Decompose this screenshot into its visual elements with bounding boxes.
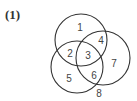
region-label-7: 7 (111, 58, 117, 69)
region-label-3: 3 (85, 50, 91, 61)
region-label-2: 2 (67, 48, 73, 59)
region-label-6: 6 (91, 70, 97, 81)
region-label-4: 4 (98, 35, 104, 46)
region-label-8: 8 (96, 88, 102, 99)
venn-diagram: 1 2 3 4 5 6 7 8 (0, 0, 137, 101)
region-label-5: 5 (66, 73, 72, 84)
region-label-1: 1 (77, 22, 83, 33)
